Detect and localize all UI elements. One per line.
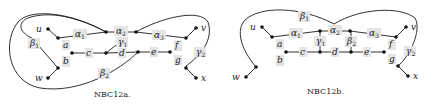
node-x [406, 74, 410, 78]
node [56, 36, 60, 40]
edge-u-a [262, 27, 272, 37]
node [168, 50, 172, 54]
node [318, 29, 322, 33]
vertex-label-v: v [411, 22, 416, 32]
caption-nbc12a: NBC12a. [94, 90, 131, 99]
node [134, 30, 138, 34]
vertex-label-u: u [250, 22, 256, 32]
edge-label-e: e [151, 47, 156, 57]
edge-label-a: a [63, 40, 68, 50]
edge-label-d: d [119, 48, 125, 58]
figure: u v w x α1 α2 α3 β1 β2 γ1 γ2 a b c d e f… [0, 0, 434, 104]
edge-label-c: c [86, 48, 91, 58]
node-x [194, 76, 198, 80]
node [56, 66, 60, 70]
node [104, 51, 108, 55]
vertex-label-w: w [35, 73, 43, 83]
edge-label-b: b [277, 55, 283, 65]
node [184, 36, 188, 40]
node [394, 35, 398, 39]
vertex-label-w: w [232, 72, 240, 82]
vertex-label-x: x [201, 73, 206, 83]
node [396, 64, 400, 68]
edge-label-a: a [277, 39, 282, 49]
vertex-label-u: u [36, 24, 42, 34]
edge-f-v [396, 27, 406, 37]
edge-f-v [186, 28, 196, 38]
node [184, 66, 188, 70]
node [318, 50, 322, 54]
diagram-nbc12a: u v w x α1 α2 α3 β1 β2 γ1 γ2 a b c d e f… [9, 14, 209, 99]
edge-label-g: g [389, 54, 395, 64]
edge-b-w [48, 68, 58, 78]
node [382, 50, 386, 54]
node [104, 30, 108, 34]
node-u [46, 27, 50, 31]
edge-gamma2-loop [136, 15, 209, 66]
edge-label-g: g [175, 55, 181, 65]
edge-g-x [186, 68, 196, 78]
edge-label-b: b [63, 56, 69, 66]
edge-b-w [246, 67, 256, 77]
node [254, 65, 258, 69]
diagram-nbc12b: u v w x α1 α2 α3 β1 β2 γ1 γ2 a b c d e f… [232, 10, 418, 96]
node [70, 51, 74, 55]
node-w [46, 76, 50, 80]
node [270, 35, 274, 39]
node [284, 50, 288, 54]
vertex-label-x: x [413, 71, 418, 81]
node [136, 50, 140, 54]
node-w [244, 75, 248, 79]
node [349, 50, 353, 54]
caption-nbc12b: NBC12b. [307, 87, 344, 96]
edge-label-c: c [300, 47, 305, 57]
vertex-label-v: v [201, 23, 206, 33]
edge-g-x [398, 66, 408, 76]
edge-u-a [48, 29, 58, 38]
node-v [404, 25, 408, 29]
node [348, 29, 352, 33]
node-v [194, 26, 198, 30]
edge-label-e: e [364, 47, 369, 57]
node-u [260, 25, 264, 29]
edge-label-d: d [332, 47, 338, 57]
